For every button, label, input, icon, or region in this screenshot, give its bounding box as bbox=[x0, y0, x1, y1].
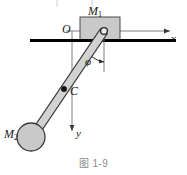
pivot-joint bbox=[101, 28, 108, 35]
label-origin-o: O bbox=[62, 23, 71, 35]
label-ball-m2: M2 bbox=[4, 128, 18, 142]
physics-figure: M1 M2 O C x y φ 图 1-9 bbox=[0, 0, 187, 175]
label-y-axis: y bbox=[76, 128, 81, 139]
pendulum-rod bbox=[33, 31, 104, 136]
ball-m2 bbox=[17, 123, 45, 151]
center-of-mass-point bbox=[61, 86, 66, 91]
label-x-axis: x bbox=[171, 33, 176, 44]
label-point-c: C bbox=[70, 85, 78, 97]
label-angle-phi: φ bbox=[85, 56, 91, 67]
angle-phi-arc bbox=[92, 57, 105, 63]
figure-caption: 图 1-9 bbox=[0, 155, 187, 170]
label-block-m1: M1 bbox=[88, 5, 102, 19]
figure-drawing bbox=[0, 0, 187, 175]
